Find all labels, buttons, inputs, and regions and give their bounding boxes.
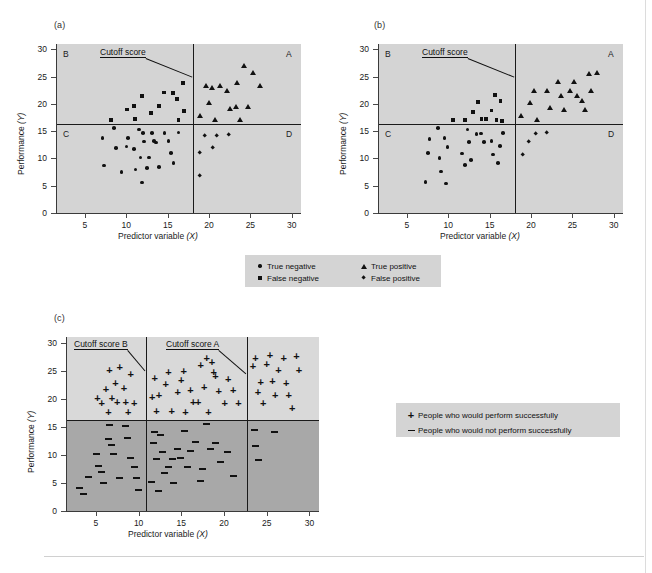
triangle-marker-icon: [588, 88, 594, 93]
triangle-marker-icon: [209, 85, 215, 90]
minus-marker-icon: [98, 471, 105, 473]
y-tick: [51, 131, 56, 132]
y-tick-label: 15: [351, 126, 369, 136]
minus-marker-icon: [203, 423, 210, 425]
plus-marker-icon: +: [156, 392, 162, 399]
triangle-marker-icon: [257, 83, 263, 88]
square-marker-icon: [157, 104, 161, 108]
plus-marker-icon: +: [212, 373, 218, 380]
y-tick: [373, 131, 378, 132]
plus-marker-icon: +: [114, 399, 120, 406]
minus-marker-icon: [199, 468, 206, 470]
panel-b-x-axis-title-var: (X): [509, 231, 520, 241]
y-tick-label: 25: [351, 72, 369, 82]
panel-c-unsuccessful-band: [67, 420, 319, 512]
x-tick: [168, 213, 169, 218]
plus-marker-icon: +: [153, 408, 159, 415]
minus-marker-icon: [122, 425, 129, 427]
panel-b-quadrant-b: B: [385, 49, 391, 59]
panel-c-x-axis-title-var: (X): [197, 529, 208, 539]
y-tick: [61, 371, 66, 372]
plus-marker-icon: +: [263, 361, 269, 368]
y-tick-label: 5: [29, 181, 47, 191]
x-tick: [407, 213, 408, 218]
y-tick: [61, 455, 66, 456]
diamond-marker-icon: [526, 139, 531, 144]
circle-marker-icon: [169, 151, 173, 155]
x-tick-label: 25: [238, 220, 262, 230]
legend-c: + People who would perform successfully …: [396, 403, 620, 437]
y-tick: [51, 49, 56, 50]
panel-c-cutoff-b-line: [146, 337, 147, 511]
triangle-marker-icon: [233, 104, 239, 109]
y-tick-label: 10: [351, 153, 369, 163]
minus-marker-icon: [157, 434, 164, 436]
circle-marker-icon: [253, 264, 267, 267]
y-tick: [373, 77, 378, 78]
triangle-marker-icon: [217, 83, 223, 88]
plus-marker-icon: +: [175, 389, 181, 396]
legend-c-row-1: + People who would perform successfully: [404, 408, 610, 423]
panel-c-y-axis-title-main: Performance: [26, 424, 36, 473]
plus-marker-icon: +: [252, 355, 258, 362]
circle-marker-icon: [139, 156, 143, 160]
panel-a-x-axis-title-main: Predictor variable: [118, 231, 184, 241]
circle-marker-icon: [426, 151, 430, 155]
minus-marker-icon: [230, 475, 237, 477]
minus-marker-icon: [95, 465, 102, 467]
circle-marker-icon: [112, 126, 116, 130]
minus-marker-icon: [170, 482, 177, 484]
plus-marker-icon: +: [201, 384, 207, 391]
plus-marker-icon: +: [230, 387, 236, 394]
circle-marker-icon: [140, 181, 144, 185]
minus-marker-icon: [212, 442, 219, 444]
minus-marker-icon: [153, 458, 160, 460]
circle-marker-icon: [134, 168, 138, 172]
square-marker-icon: [125, 108, 129, 112]
triangle-marker-icon: [594, 70, 600, 75]
y-tick-label: 5: [39, 478, 57, 488]
x-tick-label: 20: [212, 518, 236, 528]
minus-marker-icon: [197, 480, 204, 482]
minus-marker-icon: [110, 453, 117, 455]
y-tick: [61, 427, 66, 428]
legend-ab-label-1: True positive: [371, 262, 417, 271]
legend-ab-row-2: False negative False positive: [253, 272, 431, 284]
square-marker-icon: [463, 118, 467, 122]
diamond-marker-icon: [203, 133, 208, 138]
plus-marker-icon: +: [99, 400, 105, 407]
circle-marker-icon: [120, 170, 124, 174]
minus-marker-icon: [184, 466, 191, 468]
plus-marker-icon: +: [125, 409, 131, 416]
diamond-marker-icon: [198, 173, 203, 178]
y-tick: [61, 399, 66, 400]
square-marker-icon: [476, 100, 480, 104]
minus-marker-icon: [271, 431, 278, 433]
minus-marker-icon: [177, 457, 184, 459]
circle-marker-icon: [126, 136, 130, 140]
y-tick-label: 10: [39, 450, 57, 460]
circle-marker-icon: [438, 156, 442, 160]
minus-marker-icon: [255, 459, 262, 461]
panel-a-y-axis-title-main: Performance: [16, 126, 26, 175]
circle-marker-icon: [467, 140, 471, 144]
minus-marker-icon: [155, 490, 162, 492]
panel-b-y-axis-title: Performance (Y): [338, 113, 348, 175]
x-tick-label: 25: [560, 220, 584, 230]
y-tick-label: 15: [29, 126, 47, 136]
panel-b-y-axis-title-var: (Y): [338, 113, 348, 124]
minus-marker-icon: [192, 441, 199, 443]
minus-marker-icon: [124, 437, 131, 439]
minus-marker-icon: [174, 448, 181, 450]
diamond-marker-icon: [545, 130, 550, 135]
plus-marker-icon: +: [209, 359, 215, 366]
panel-a-quadrant-a: A: [286, 49, 292, 59]
x-tick: [309, 511, 310, 516]
square-marker-icon: [133, 117, 137, 121]
y-tick: [61, 511, 66, 512]
x-tick: [490, 213, 491, 218]
minus-marker-icon: [116, 477, 123, 479]
triangle-marker-icon: [234, 80, 240, 85]
x-tick-label: 20: [197, 220, 221, 230]
plus-marker-icon: +: [296, 367, 302, 374]
